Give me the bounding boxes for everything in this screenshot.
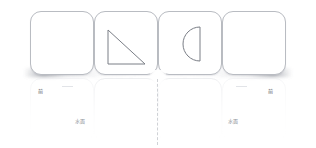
semicircle-shape: [159, 12, 221, 74]
card-row: [30, 11, 286, 75]
center-axis-line: [157, 79, 158, 145]
card-4[interactable]: [222, 11, 286, 75]
reflection-card-4: [222, 78, 286, 140]
right-triangle-shape: [95, 12, 157, 74]
reflection-card-2: [94, 78, 158, 140]
scene-canvas: 前 前 水面 水面: [0, 0, 316, 148]
card-1-content: [31, 12, 93, 74]
reflection-area: [30, 78, 286, 140]
card-1[interactable]: [30, 11, 94, 75]
label-top-left: 前: [38, 89, 43, 94]
label-bottom-right: 水面: [228, 119, 238, 124]
label-bottom-left: 水面: [75, 119, 85, 124]
label-top-right: 前: [268, 89, 273, 94]
card-3[interactable]: [158, 11, 222, 75]
tick-mark-right: [236, 86, 247, 87]
card-2[interactable]: [94, 11, 158, 75]
tick-mark-left: [62, 86, 73, 87]
reflection-card-3: [158, 78, 222, 140]
card-4-content: [223, 12, 285, 74]
reflection-cards: [30, 78, 286, 140]
